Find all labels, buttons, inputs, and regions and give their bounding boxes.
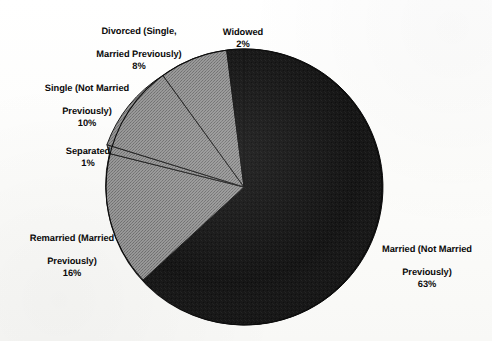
slice-label-remarried-line1: Remarried (Married: [30, 233, 114, 243]
slice-label-remarried-line2: Previously): [47, 256, 97, 266]
slice-value-divorced: 8%: [79, 61, 199, 72]
slice-value-separated: 1%: [40, 158, 136, 169]
slice-label-widowed: Widowed 2%: [198, 16, 288, 62]
slice-label-separated: Separated 1%: [40, 135, 136, 181]
pie-chart: Divorced (Single, Married Previously) 8%…: [0, 0, 492, 341]
pie-chart-page: Divorced (Single, Married Previously) 8%…: [0, 0, 492, 341]
slice-value-widowed: 2%: [198, 39, 288, 50]
slice-label-married-line1: Married (Not Married: [382, 244, 472, 254]
slice-label-married: Married (Not Married Previously) 63%: [364, 233, 490, 301]
slice-value-single: 10%: [22, 118, 152, 129]
slice-label-married-line2: Previously): [402, 267, 452, 277]
slice-label-single: Single (Not Married Previously) 10%: [22, 72, 152, 140]
slice-label-divorced-line2: Married Previously): [96, 49, 181, 59]
slice-label-single-line1: Single (Not Married: [45, 83, 129, 93]
slice-label-remarried: Remarried (Married Previously) 16%: [6, 222, 138, 290]
slice-value-remarried: 16%: [6, 268, 138, 279]
slice-label-divorced-line1: Divorced (Single,: [101, 26, 176, 36]
slice-value-married: 63%: [364, 279, 490, 290]
slice-label-single-line2: Previously): [62, 106, 112, 116]
slice-label-separated-line1: Separated: [66, 146, 111, 156]
slice-label-widowed-line1: Widowed: [223, 27, 263, 37]
